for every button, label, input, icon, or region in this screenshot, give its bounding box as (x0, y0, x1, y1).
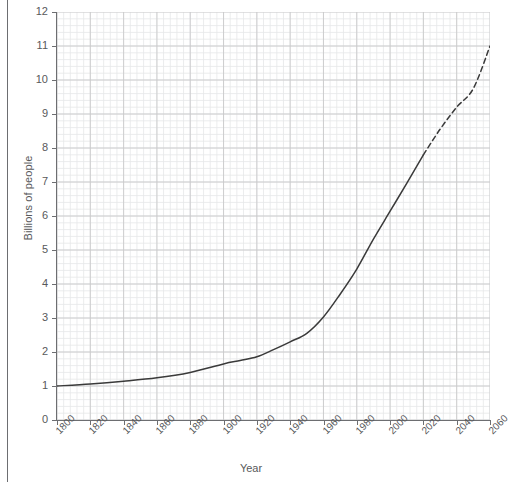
y-tick-label: 8 (14, 142, 48, 153)
y-tick-mark (52, 352, 57, 353)
x-tick-label: 2060 (487, 413, 510, 436)
population-curve (57, 12, 490, 420)
y-tick-mark (52, 46, 57, 47)
y-tick-label: 5 (14, 244, 48, 255)
y-tick-mark (52, 148, 57, 149)
y-tick-mark (52, 114, 57, 115)
y-tick-mark (52, 318, 57, 319)
y-tick-label: 9 (14, 108, 48, 119)
y-tick-label: 0 (14, 414, 48, 425)
y-tick-label: 11 (14, 40, 48, 51)
y-tick-label: 1 (14, 380, 48, 391)
y-tick-mark (52, 216, 57, 217)
y-tick-mark (52, 80, 57, 81)
x-axis-title: Year (0, 462, 502, 474)
y-tick-mark (52, 250, 57, 251)
y-tick-label: 3 (14, 312, 48, 323)
y-tick-label: 4 (14, 278, 48, 289)
y-tick-mark (52, 182, 57, 183)
y-tick-label: 10 (14, 74, 48, 85)
y-tick-mark (52, 284, 57, 285)
y-axis-title: Billions of people (22, 108, 34, 288)
y-tick-label: 6 (14, 210, 48, 221)
y-tick-label: 12 (14, 6, 48, 17)
y-tick-mark (52, 12, 57, 13)
plot-area (57, 12, 490, 420)
y-tick-label: 2 (14, 346, 48, 357)
y-tick-label: 7 (14, 176, 48, 187)
y-tick-mark (52, 386, 57, 387)
